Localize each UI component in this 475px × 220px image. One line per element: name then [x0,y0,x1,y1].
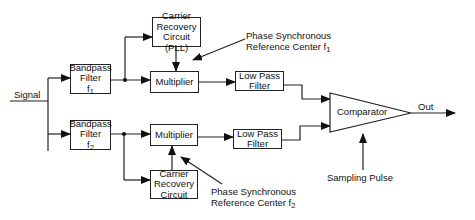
reference-note-f2: Phase Synchronous Reference Center f2 [211,186,296,209]
bandpass-f1-freq: f1 [87,84,94,96]
reference-note-f1-line2: Reference Center f1 [246,41,331,53]
multiplier-f2-label: Multiplier [155,130,193,141]
bandpass-filter-f2: Bandpass Filter f2 [70,120,111,150]
coherent-fsk-demodulator-diagram: Signal Bandpass Filter f1 Bandpass Filte… [0,0,475,220]
bandpass-f1-line2: Filter [80,73,101,84]
reference-note-f2-text: Reference Center f [211,197,291,208]
carrier-recovery-pll: Carrier Recovery Circuit (PLL) [152,17,201,47]
sampling-pulse-label: Sampling Pulse [327,172,393,183]
low-pass-f2-line2: Filter [247,139,268,150]
bandpass-filter-f1: Bandpass Filter f1 [70,64,111,94]
comparator-label: Comparator [337,106,387,117]
carrier-recovery-f2-line3: Circuit [161,190,188,201]
reference-note-f1-line1: Phase Synchronous [246,30,331,41]
output-label: Out [418,101,433,112]
freq-subscript: 2 [90,143,94,152]
reference-note-f1-text: Reference Center f [246,41,326,52]
bandpass-f2-freq: f2 [87,140,94,152]
reference-note-f1-subscript: 1 [326,45,330,54]
carrier-recovery-circuit-f2: Carrier Recovery Circuit [150,170,198,199]
carrier-recovery-pll-line1: Carrier [162,11,191,22]
reference-note-f2-subscript: 2 [291,201,295,210]
reference-note-f1: Phase Synchronous Reference Center f1 [246,30,331,53]
multiplier-f1-label: Multiplier [155,77,193,88]
reference-note-f2-line1: Phase Synchronous [211,186,296,197]
carrier-recovery-pll-line3: Circuit (PLL) [153,32,200,53]
low-pass-filter-f1: Low Pass Filter [235,71,284,91]
low-pass-f1-line2: Filter [249,81,270,92]
bandpass-f2-line2: Filter [80,129,101,140]
freq-subscript: 1 [90,87,94,96]
reference-note-f2-line2: Reference Center f2 [211,197,296,209]
signal-input-label: Signal [14,89,40,100]
multiplier-f2: Multiplier [150,124,198,146]
low-pass-filter-f2: Low Pass Filter [233,129,282,149]
multiplier-f1: Multiplier [150,71,199,93]
